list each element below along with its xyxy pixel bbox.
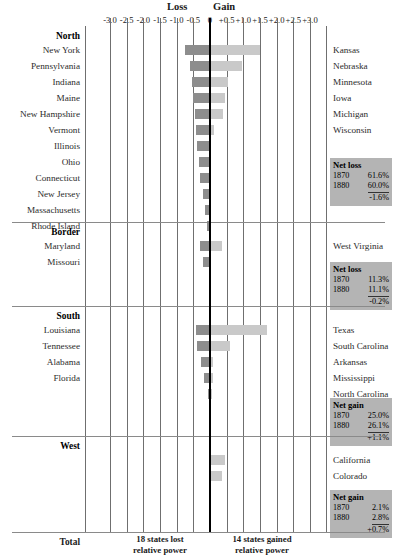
gain-bar bbox=[210, 61, 242, 71]
section-title-south: South bbox=[0, 310, 80, 322]
net-summary-year-row: 187061.6% bbox=[333, 171, 389, 181]
bar-group bbox=[85, 122, 327, 138]
net-summary-box: Net loss187061.6%188060.0%-1.6% bbox=[330, 158, 392, 206]
chart-row: PennsylvaniaNebraska bbox=[0, 58, 397, 74]
chart-legend: Loss Gain bbox=[0, 1, 397, 15]
state-label-right: Colorado bbox=[333, 468, 397, 484]
net-summary-value: 2.1% bbox=[372, 503, 389, 513]
gain-bar bbox=[210, 109, 223, 119]
chart-row: IndianaMinnesota bbox=[0, 74, 397, 90]
chart-row: LouisianaTexas bbox=[0, 322, 397, 338]
net-summary-year: 1870 bbox=[333, 171, 349, 181]
state-label-left: New York bbox=[0, 42, 80, 58]
bar-group bbox=[85, 370, 327, 386]
gain-bar bbox=[210, 93, 225, 103]
state-label-right: Iowa bbox=[333, 90, 397, 106]
net-summary-year: 1870 bbox=[333, 275, 349, 285]
state-label-right: Michigan bbox=[333, 106, 397, 122]
gain-bar bbox=[210, 45, 260, 55]
axis-tick-mark bbox=[243, 18, 244, 26]
section-divider bbox=[12, 222, 385, 223]
state-label-left: Missouri bbox=[0, 254, 80, 270]
bar-group bbox=[85, 74, 327, 90]
state-label-left: Illinois bbox=[0, 138, 80, 154]
gain-bar bbox=[210, 77, 228, 87]
net-summary-year: 1880 bbox=[333, 513, 349, 524]
bar-group bbox=[85, 322, 327, 338]
bar-group bbox=[85, 106, 327, 122]
gain-bar bbox=[210, 471, 222, 481]
state-label-left: New Hampshire bbox=[0, 106, 80, 122]
state-label-left: Connecticut bbox=[0, 170, 80, 186]
chart-row: New YorkKansas bbox=[0, 42, 397, 58]
net-summary-year-row: 188026.1% bbox=[333, 421, 389, 432]
net-summary-year: 1880 bbox=[333, 421, 349, 432]
net-summary-value: 26.1% bbox=[368, 421, 389, 432]
axis-tick-mark bbox=[277, 18, 278, 26]
loss-bar bbox=[195, 109, 210, 119]
state-label-left: Maryland bbox=[0, 238, 80, 254]
axis-tick-mark bbox=[160, 18, 161, 26]
state-label-right: Minnesota bbox=[333, 74, 397, 90]
bar-group bbox=[85, 218, 327, 234]
state-label-left: Maine bbox=[0, 90, 80, 106]
state-label-left: Indiana bbox=[0, 74, 80, 90]
net-summary-delta: +1.1% bbox=[333, 433, 389, 443]
state-label-left: Ohio bbox=[0, 154, 80, 170]
bar-group bbox=[85, 338, 327, 354]
state-label-left: New Jersey bbox=[0, 186, 80, 202]
net-summary-delta: -1.6% bbox=[333, 193, 389, 203]
net-summary-box: Net gain187025.0%188026.1%+1.1% bbox=[330, 398, 392, 446]
net-summary-value: 11.1% bbox=[368, 285, 389, 296]
net-summary-year-row: 18702.1% bbox=[333, 503, 389, 513]
net-summary-value: 60.0% bbox=[368, 181, 389, 192]
net-summary-title: Net gain bbox=[333, 492, 389, 503]
gain-bar bbox=[210, 325, 267, 335]
net-summary-year-row: 18802.8% bbox=[333, 513, 389, 524]
chart-row: California bbox=[0, 452, 397, 468]
state-label-right: Wisconsin bbox=[333, 122, 397, 138]
apportionment-chart: Loss Gain -3.0-2.5-2.0-1.5-1.0-0.50+0.5+… bbox=[0, 0, 397, 557]
net-summary-box: Net gain18702.1%18802.8%+0.7% bbox=[330, 490, 392, 538]
state-label-right: Mississippi bbox=[333, 370, 397, 386]
chart-row: AlabamaArkansas bbox=[0, 354, 397, 370]
state-label-right: South Carolina bbox=[333, 338, 397, 354]
net-summary-delta: +0.7% bbox=[333, 525, 389, 535]
net-summary-year-row: 187025.0% bbox=[333, 411, 389, 421]
section-divider bbox=[12, 436, 385, 437]
axis-tick-mark bbox=[127, 18, 128, 26]
bar-group bbox=[85, 138, 327, 154]
loss-bar bbox=[196, 125, 210, 135]
net-summary-title: Net loss bbox=[333, 264, 389, 275]
chart-row: MarylandWest Virginia bbox=[0, 238, 397, 254]
loss-bar bbox=[185, 45, 210, 55]
bar-group bbox=[85, 170, 327, 186]
state-label-right: California bbox=[333, 452, 397, 468]
zero-axis-line bbox=[209, 26, 211, 532]
bar-group bbox=[85, 90, 327, 106]
section-title-west: West bbox=[0, 440, 80, 452]
state-label-left: Pennsylvania bbox=[0, 58, 80, 74]
chart-row: TennesseeSouth Carolina bbox=[0, 338, 397, 354]
state-label-left: Vermont bbox=[0, 122, 80, 138]
total-note-gain: 14 states gainedrelative power bbox=[214, 534, 310, 555]
bar-group bbox=[85, 354, 327, 370]
bar-group bbox=[85, 202, 327, 218]
state-label-right: Nebraska bbox=[333, 58, 397, 74]
loss-bar bbox=[193, 93, 210, 103]
chart-row: Colorado bbox=[0, 468, 397, 484]
total-note-line: 14 states gained bbox=[214, 534, 310, 545]
loss-bar bbox=[196, 325, 210, 335]
net-summary-year-row: 187011.3% bbox=[333, 275, 389, 285]
bar-group bbox=[85, 42, 327, 58]
state-label-left: Louisiana bbox=[0, 322, 80, 338]
section-divider bbox=[12, 306, 385, 307]
total-note-loss: 18 states lostrelative power bbox=[112, 534, 208, 555]
state-label-right: Kansas bbox=[333, 42, 397, 58]
net-summary-year-row: 188060.0% bbox=[333, 181, 389, 192]
net-summary-value: 61.6% bbox=[368, 171, 389, 181]
total-note-line: relative power bbox=[214, 545, 310, 556]
gain-bar bbox=[210, 241, 222, 251]
legend-gain-label: Gain bbox=[213, 1, 235, 13]
loss-bar bbox=[192, 77, 210, 87]
